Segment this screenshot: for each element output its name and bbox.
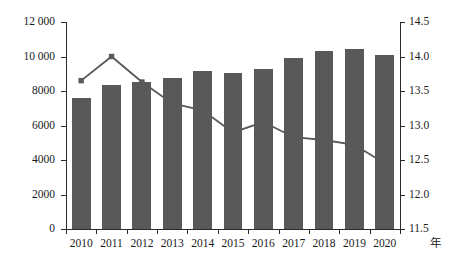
y-axis-left-label: 12 000 bbox=[23, 16, 55, 28]
y-axis-right-label: 14.5 bbox=[409, 16, 429, 28]
bar-2014 bbox=[193, 71, 212, 229]
x-axis-line bbox=[66, 229, 400, 230]
y-axis-left-label: 0 bbox=[49, 223, 55, 235]
y-axis-left-label: 2000 bbox=[32, 189, 55, 201]
y-axis-right-tick bbox=[400, 91, 405, 92]
y-axis-right-tick bbox=[400, 22, 405, 23]
y-axis-right-tick bbox=[400, 57, 405, 58]
y-axis-left-label: 8000 bbox=[32, 85, 55, 97]
x-axis-tick bbox=[66, 229, 67, 234]
x-axis-tick bbox=[248, 229, 249, 234]
y-axis-right-label: 12.5 bbox=[409, 154, 429, 166]
y-axis-right-tick bbox=[400, 126, 405, 127]
x-axis-label-2014: 2014 bbox=[187, 238, 217, 250]
y-axis-left-label: 10 000 bbox=[23, 51, 55, 63]
y-axis-left-label: 4000 bbox=[32, 154, 55, 166]
y-axis-right-tick bbox=[400, 195, 405, 196]
x-axis-tick bbox=[187, 229, 188, 234]
bar-2010 bbox=[72, 98, 91, 229]
y-axis-right-label: 14.0 bbox=[409, 51, 429, 63]
x-axis-label-2019: 2019 bbox=[339, 238, 369, 250]
x-axis-unit-label: 年 bbox=[430, 238, 441, 250]
x-axis-label-2020: 2020 bbox=[370, 238, 400, 250]
x-axis-tick bbox=[157, 229, 158, 234]
x-axis-tick bbox=[127, 229, 128, 234]
x-axis-tick bbox=[309, 229, 310, 234]
bar-2019 bbox=[345, 49, 364, 229]
chart-container: 12 000 10 000 8000 6000 4000 2000 0 14.5… bbox=[0, 0, 465, 269]
y-axis-right-label: 12.0 bbox=[409, 189, 429, 201]
bar-2016 bbox=[254, 69, 273, 229]
bar-2017 bbox=[284, 58, 303, 229]
bar-2018 bbox=[315, 51, 334, 229]
y-axis-right-tick bbox=[400, 160, 405, 161]
bar-2015 bbox=[224, 73, 243, 229]
x-axis-tick bbox=[339, 229, 340, 234]
y-axis-right-label: 11.5 bbox=[409, 223, 429, 235]
x-axis-tick bbox=[279, 229, 280, 234]
x-axis-tick bbox=[370, 229, 371, 234]
x-axis-label-2012: 2012 bbox=[127, 238, 157, 250]
bar-2020 bbox=[375, 55, 394, 229]
bars-layer bbox=[66, 22, 400, 229]
x-axis-label-2016: 2016 bbox=[248, 238, 278, 250]
bar-2011 bbox=[102, 85, 121, 229]
x-axis-tick bbox=[96, 229, 97, 234]
y-axis-right-label: 13.0 bbox=[409, 120, 429, 132]
bar-2012 bbox=[132, 82, 151, 229]
y-axis-left-label: 6000 bbox=[32, 120, 55, 132]
x-axis-label-2017: 2017 bbox=[279, 238, 309, 250]
x-axis-tick bbox=[218, 229, 219, 234]
x-axis-label-2013: 2013 bbox=[157, 238, 187, 250]
x-axis-label-2018: 2018 bbox=[309, 238, 339, 250]
x-axis-tick bbox=[400, 229, 401, 234]
x-axis-label-2010: 2010 bbox=[66, 238, 96, 250]
x-axis-label-2015: 2015 bbox=[218, 238, 248, 250]
y-axis-right-label: 13.5 bbox=[409, 85, 429, 97]
bar-2013 bbox=[163, 78, 182, 229]
x-axis-label-2011: 2011 bbox=[96, 238, 126, 250]
